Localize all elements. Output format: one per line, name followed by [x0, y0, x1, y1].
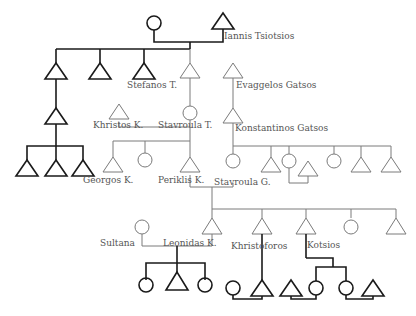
male-symbol [212, 13, 234, 29]
male-symbol [386, 218, 406, 234]
marriage-line [154, 29, 223, 42]
male-symbol [166, 272, 188, 290]
sibling-line [146, 263, 205, 280]
label-sultana: Sultana [100, 238, 135, 248]
male-symbol [223, 108, 243, 123]
male-symbol [280, 280, 302, 296]
label-evaggelos-gatsos: Evaggelos Gatsos [236, 80, 316, 90]
descent-line [306, 258, 333, 267]
male-symbol [45, 160, 67, 176]
label-konstantinos-gatsos: Konstantinos Gatsos [235, 123, 328, 133]
male-symbol [351, 157, 371, 172]
female-symbol [226, 154, 240, 168]
label-stavroula-g: Stavroula G. [214, 177, 271, 187]
male-symbol [202, 218, 222, 234]
bold-lineage [16, 13, 234, 176]
female-symbol [327, 154, 341, 168]
male-symbol [133, 63, 155, 79]
female-symbol [138, 153, 152, 167]
kinship-diagram [0, 0, 416, 316]
female-symbol [226, 281, 240, 295]
male-symbol [180, 157, 200, 172]
female-symbol [282, 154, 296, 168]
male-symbol [251, 280, 273, 296]
female-symbol [309, 281, 323, 295]
male-symbol [298, 161, 318, 176]
label-khristoforos: Khristoforos [231, 241, 287, 251]
label-kotsios: Kotsios [307, 240, 340, 250]
label-periklis: Periklis K. [158, 175, 204, 185]
male-symbol [45, 108, 67, 124]
male-symbol [103, 157, 123, 172]
female-symbol [198, 278, 212, 292]
male-symbol [381, 157, 401, 172]
label-georgos: Georgos K. [83, 175, 133, 185]
male-symbol [252, 218, 272, 234]
female-symbol [135, 220, 149, 234]
male-symbol [223, 63, 243, 78]
male-symbol [16, 160, 38, 176]
male-symbol [89, 63, 111, 79]
male-symbol [296, 218, 316, 234]
sibling-line [316, 267, 346, 281]
label-stavroula-t: Stavroula T. [158, 120, 212, 130]
sibling-line [27, 146, 83, 160]
female-symbol [339, 281, 353, 295]
male-symbol [72, 160, 94, 176]
male-symbol [109, 104, 129, 119]
label-khristos: Khristos K. [93, 120, 143, 130]
label-iannis-tsiotsios: Iannis Tsiotsios [224, 31, 294, 41]
female-symbol [139, 278, 153, 292]
male-symbol [261, 157, 281, 172]
male-symbol [362, 280, 384, 296]
male-symbol [45, 63, 67, 79]
female-symbol [183, 106, 197, 120]
female-symbol [344, 220, 358, 234]
male-symbol [180, 63, 200, 78]
label-stefanos: Stefanos T. [127, 80, 177, 90]
female-symbol [147, 16, 161, 30]
label-leonidas: Leonidas K. [163, 238, 217, 248]
